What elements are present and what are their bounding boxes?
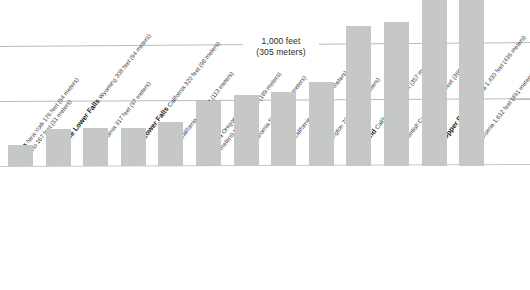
annotation-line-2: (305 meters)	[256, 47, 305, 57]
bar-bridalveil	[271, 92, 296, 166]
bar-vernal	[83, 128, 108, 166]
bar-fairy	[309, 82, 334, 166]
bar-yellowstone-lower-falls	[46, 129, 71, 166]
gridline-annotation-1000-feet: 1,000 feet (305 meters)	[243, 36, 319, 57]
bar-ribbon	[459, 0, 484, 166]
waterfall-heights-bar-chart: 1,000 feet (305 meters) Niagara New York…	[0, 0, 530, 290]
bar-silver-strand	[346, 26, 371, 166]
x-axis-labels: Niagara New York 176 feet (54 meters)Ont…	[0, 162, 530, 290]
bar-multnomah	[196, 101, 221, 166]
bar-yosemite-lower-falls	[121, 128, 146, 166]
gridline-500-feet	[0, 98, 530, 102]
bar-niagara	[8, 145, 33, 166]
bar-nevada	[234, 95, 259, 166]
bar-takakkaw	[384, 22, 409, 166]
bar-illilouette	[158, 122, 183, 166]
bar-yosemite-upper-falls	[422, 0, 447, 166]
annotation-line-1: 1,000 feet	[262, 36, 301, 46]
